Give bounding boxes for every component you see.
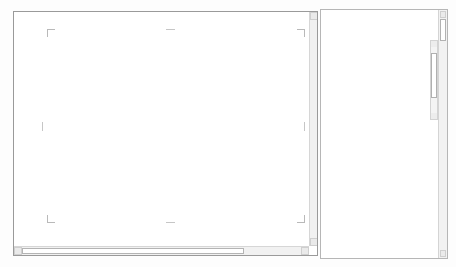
pane-scrollbar[interactable] [438, 10, 447, 258]
field-list[interactable] [325, 40, 429, 120]
scroll-down-icon[interactable] [440, 250, 446, 257]
power-view-fields-pane[interactable] [320, 9, 448, 259]
scrollbar-thumb[interactable] [431, 53, 437, 98]
selection-handle-top-left[interactable] [47, 29, 55, 37]
x-axis [70, 198, 302, 250]
scroll-left-icon[interactable] [14, 247, 22, 255]
scroll-down-icon[interactable] [431, 113, 437, 119]
report-canvas-surface[interactable] [14, 12, 317, 255]
field-list-scrollbar[interactable] [430, 40, 438, 120]
canvas-horizontal-scrollbar[interactable] [14, 246, 309, 255]
close-icon[interactable] [423, 14, 433, 24]
scrollbar-thumb[interactable] [440, 19, 446, 41]
power-view-report-window [0, 0, 456, 267]
selection-handle-bottom-left[interactable] [47, 215, 55, 223]
scroll-right-icon[interactable] [301, 247, 309, 255]
scroll-down-icon[interactable] [310, 238, 317, 246]
canvas-vertical-scrollbar[interactable] [309, 12, 317, 246]
scroll-up-icon[interactable] [440, 11, 446, 18]
y-axis [32, 58, 68, 197]
scroll-up-icon[interactable] [431, 41, 437, 47]
scroll-up-icon[interactable] [310, 12, 317, 20]
scrollbar-thumb[interactable] [22, 248, 244, 254]
selection-handle-top-right[interactable] [297, 29, 305, 37]
line-chart-plot-area[interactable] [70, 58, 302, 197]
selection-handle-right-middle[interactable] [304, 122, 305, 131]
selection-handle-top-middle[interactable] [166, 29, 175, 30]
pane-header [321, 10, 447, 38]
report-canvas[interactable] [13, 11, 318, 256]
